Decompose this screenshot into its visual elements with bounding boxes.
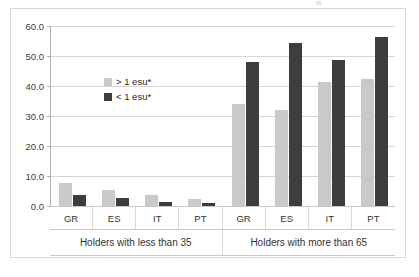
plot-area: 0.010.020.030.040.050.060.0: [50, 26, 395, 206]
bar--1-esu--pt-7: [361, 79, 374, 206]
bar--1-esu--it-2: [145, 195, 158, 206]
bar--1-esu--pt-7: [375, 37, 388, 206]
bar--1-esu--es-5: [275, 110, 288, 206]
y-tick-label: 0.0: [31, 201, 44, 212]
legend-swatch-icon: [104, 93, 112, 101]
y-tick-label: 40.0: [26, 81, 45, 92]
y-tick-label: 50.0: [26, 51, 45, 62]
legend-label: > 1 esu*: [116, 76, 151, 87]
bar--1-esu--es-1: [102, 190, 115, 206]
category-axis: GRESITPTGRESITPT: [50, 206, 395, 230]
category-label-gr-4: GR: [223, 207, 266, 229]
bar--1-esu--gr-0: [59, 183, 72, 206]
category-label-pt-3: PT: [179, 207, 222, 229]
bar--1-esu--it-6: [332, 60, 345, 206]
bar--1-esu--gr-4: [246, 62, 259, 206]
y-tick-label: 30.0: [26, 111, 45, 122]
bar--1-esu--gr-4: [232, 104, 245, 206]
legend-swatch-icon: [104, 78, 112, 86]
bar--1-esu--es-5: [289, 43, 302, 206]
y-tick-label: 10.0: [26, 171, 45, 182]
group-label-1: Holders with more than 65: [223, 230, 396, 255]
category-label-es-1: ES: [93, 207, 136, 229]
bars-layer: [51, 26, 395, 206]
bar-chart: 0.010.020.030.040.050.060.0 > 1 esu* < 1…: [0, 0, 419, 277]
y-tick-label: 20.0: [26, 141, 45, 152]
group-axis: Holders with less than 35Holders with mo…: [50, 230, 395, 256]
category-label-it-2: IT: [136, 207, 179, 229]
category-label-es-5: ES: [266, 207, 309, 229]
bar--1-esu--es-1: [116, 198, 129, 206]
y-tick-label: 60.0: [26, 21, 45, 32]
legend-item: < 1 esu*: [104, 91, 151, 102]
legend-label: < 1 esu*: [116, 91, 151, 102]
legend-item: > 1 esu*: [104, 76, 151, 87]
bar--1-esu--pt-3: [188, 199, 201, 207]
group-label-0: Holders with less than 35: [50, 230, 223, 255]
bar--1-esu--gr-0: [73, 195, 86, 206]
chart-legend: > 1 esu* < 1 esu*: [104, 76, 151, 102]
category-label-pt-7: PT: [352, 207, 395, 229]
page-artifact-mark: [316, 1, 321, 5]
bar--1-esu--it-6: [318, 82, 331, 206]
category-label-gr-0: GR: [50, 207, 93, 229]
category-label-it-6: IT: [309, 207, 352, 229]
